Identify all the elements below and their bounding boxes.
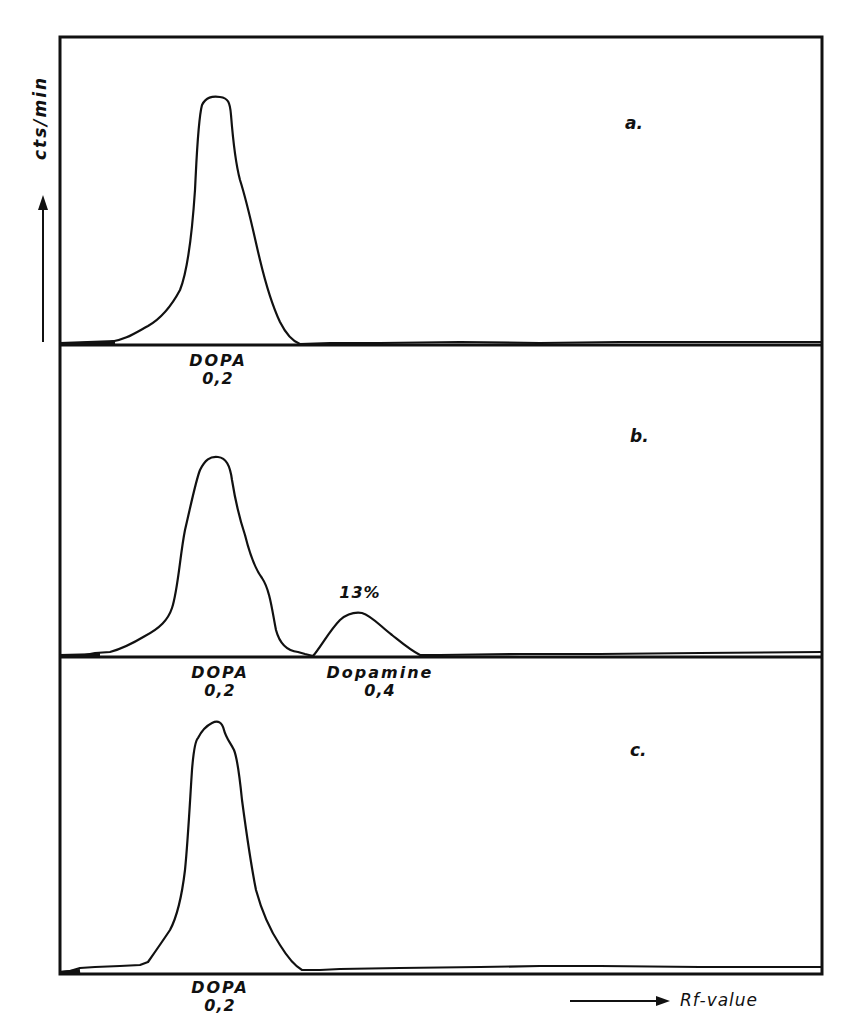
panel-a-tag: a. [625, 113, 643, 133]
x-axis-label: Rf-value [680, 990, 758, 1010]
panel-b-peak-dopamine-rf: 0,4 [315, 681, 445, 700]
panel-b-peak-dopa-rf: 0,2 [180, 681, 260, 700]
y-axis-arrow-icon [38, 195, 48, 210]
chart-canvas [0, 0, 850, 1029]
panel-c-trace [60, 722, 822, 972]
panel-a-peak-dopa-label: DOPA [178, 351, 258, 370]
panel-c-peak-dopa-label: DOPA [180, 978, 260, 997]
panel-b-dopamine-percentage: 13% [325, 583, 395, 602]
panel-b-tag: b. [630, 426, 649, 446]
panel-b-trace [60, 457, 822, 656]
panel-b-baseline-smudge [60, 655, 100, 656]
chart-frame [60, 37, 822, 974]
panel-c-tag: c. [630, 740, 647, 760]
panel-c-peak-dopa-rf: 0,2 [180, 996, 260, 1015]
panel-b-peak-dopamine-label: Dopamine [315, 663, 445, 682]
panel-a-trace [60, 97, 822, 344]
x-axis-arrow-icon [656, 996, 670, 1006]
radiochromatogram-figure: cts/min Rf-value a. b. c. DOPA 0,2 DOPA … [0, 0, 850, 1029]
panel-c-baseline-smudge [60, 971, 80, 973]
panel-a-baseline-smudge [60, 342, 115, 344]
panel-b-peak-dopa-label: DOPA [180, 663, 260, 682]
y-axis-label: cts/min [30, 76, 50, 160]
panel-a-peak-dopa-rf: 0,2 [178, 369, 258, 388]
